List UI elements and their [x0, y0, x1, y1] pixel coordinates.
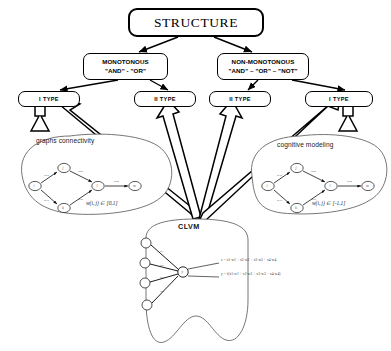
clvm-output-formula-1: s = x1·w1 + x2·w2 + x3·w3 + x4·w4	[221, 258, 276, 262]
node-type-1-left[interactable]: I TYPE	[18, 91, 80, 107]
svg-text:w4: w4	[160, 289, 164, 293]
svg-text:l: l	[330, 184, 331, 188]
svg-text:w2: w2	[160, 263, 164, 267]
node-non-monotonous-line2: "AND" – "OR" – "NOT"	[228, 67, 297, 76]
svg-text:w34: w34	[78, 197, 83, 201]
diagram-canvas: w12 w13 w23 w34 w45 i j k l m	[0, 0, 391, 351]
node-structure[interactable]: STRUCTURE	[128, 8, 264, 37]
node-non-monotonous-line1: NON-MONOTONOUS	[232, 58, 295, 67]
node-type-2-left-label: II TYPE	[154, 96, 176, 102]
svg-text:j: j	[62, 166, 64, 170]
node-type-2-left[interactable]: II TYPE	[134, 91, 196, 107]
cloud-label-cognitive-modeling: cognitive modeling	[277, 141, 333, 148]
tree-edges-logic	[60, 80, 345, 90]
node-type-1-right[interactable]: I TYPE	[305, 91, 373, 107]
node-structure-label: STRUCTURE	[154, 15, 238, 31]
cloud-label-graphs-connectivity: graphs connectivity	[36, 137, 94, 144]
tree-edges-root	[139, 37, 252, 52]
svg-text:w23: w23	[78, 169, 83, 173]
svg-text:j: j	[295, 166, 297, 170]
cloud-clvm: w1 w2 w3 w4 y	[140, 219, 248, 343]
diagram-vector-layer: w12 w13 w23 w34 w45 i j k l m	[0, 0, 391, 351]
svg-text:i: i	[267, 184, 268, 188]
formula-graphs-connectivity: w(i, j) ∈ [0,1]	[86, 200, 118, 206]
svg-text:i: i	[34, 184, 35, 188]
node-monotonous[interactable]: MONOTONOUS "AND" - "OR"	[83, 53, 168, 80]
node-type-1-left-label: I TYPE	[39, 96, 59, 102]
svg-text:w13: w13	[277, 198, 282, 202]
svg-text:w1: w1	[160, 249, 164, 253]
svg-text:w12: w12	[277, 173, 282, 177]
svg-text:w45: w45	[347, 179, 352, 183]
svg-text:w45: w45	[114, 179, 119, 183]
node-monotonous-line2: "AND" - "OR"	[105, 67, 146, 76]
svg-text:l: l	[97, 184, 98, 188]
formula-cognitive-modeling: w(i, j) ∈ [-1,1]	[312, 200, 345, 206]
svg-text:w12: w12	[44, 173, 49, 177]
node-non-monotonous[interactable]: NON-MONOTONOUS "AND" – "OR" – "NOT"	[217, 53, 309, 80]
node-monotonous-line1: MONOTONOUS	[102, 58, 149, 67]
svg-text:w23: w23	[311, 169, 316, 173]
node-type-2-right-label: II TYPE	[229, 96, 251, 102]
clvm-output-formula-2: y = f(x1·w1 + x2·w2 + x3·w3 + x4·w4)	[221, 272, 281, 276]
svg-text:w13: w13	[44, 198, 49, 202]
svg-text:w3: w3	[160, 275, 164, 279]
node-type-1-right-label: I TYPE	[329, 96, 349, 102]
clvm-label: CLVM	[178, 222, 200, 231]
node-type-2-right[interactable]: II TYPE	[209, 91, 271, 107]
